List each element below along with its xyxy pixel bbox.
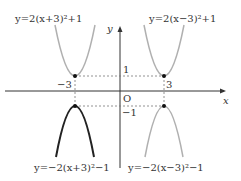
graph-canvas [0, 0, 241, 181]
vertex-dot [73, 74, 77, 78]
parabola-bottom-right [145, 106, 183, 157]
vertex-dot [162, 74, 166, 78]
equation-top-right: y=2(x−3)²+1 [149, 14, 216, 24]
equation-bottom-left: y=−2(x+3)²−1 [34, 163, 110, 173]
y-axis-label: y [107, 24, 113, 34]
vertex-dot [162, 104, 166, 108]
tick-x-neg: −3 [57, 80, 72, 90]
x-axis-label: x [223, 96, 229, 106]
tick-y-pos: 1 [123, 65, 129, 75]
equation-bottom-right: y=−2(x−3)²−1 [128, 163, 204, 173]
x-axis-arrow-icon [220, 89, 226, 94]
origin-label: O [123, 94, 131, 104]
equation-top-left: y=2(x+3)²+1 [15, 14, 82, 24]
parabola-top-right [144, 25, 184, 76]
parabola-bottom-left [56, 106, 94, 157]
tick-x-pos: 3 [166, 80, 172, 90]
parabola-top-left [55, 25, 95, 76]
y-axis-arrow-icon [118, 26, 123, 32]
tick-y-neg: −1 [122, 108, 137, 118]
vertex-dot [73, 104, 77, 108]
